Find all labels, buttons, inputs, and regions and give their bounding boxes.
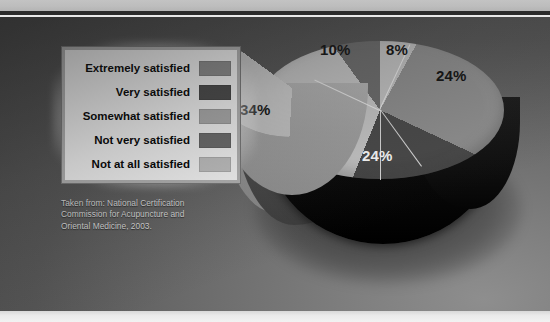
legend-item-somewhat-satisfied: Somewhat satisfied — [65, 104, 237, 128]
caption-line-2: Commission for Acupuncture and — [61, 209, 231, 220]
photo-frame-bottom-band — [0, 311, 550, 322]
pie-label-not-very: 10% — [320, 41, 351, 58]
legend-box: Extremely satisfied Very satisfied Somew… — [62, 47, 240, 183]
legend-label: Somewhat satisfied — [83, 110, 190, 122]
legend-swatch-not-very-satisfied — [199, 133, 231, 148]
legend-item-extremely-satisfied: Extremely satisfied — [65, 56, 237, 80]
caption-line-3: Oriental Medicine, 2003. — [61, 221, 231, 232]
photo-frame-top-highlight — [0, 15, 550, 17]
legend-swatch-somewhat-satisfied — [199, 109, 231, 124]
pie-label-not-at-all: 8% — [386, 41, 408, 58]
caption-line-1: Taken from: National Certification — [61, 198, 231, 209]
photo-frame-top-band — [0, 0, 550, 11]
legend-swatch-very-satisfied — [199, 85, 231, 100]
legend-label: Not at all satisfied — [92, 158, 190, 170]
legend-swatch-not-at-all-satisfied — [199, 157, 231, 172]
pie-label-very: 24% — [362, 147, 393, 164]
legend-swatch-extremely-satisfied — [199, 61, 231, 76]
legend-item-not-at-all-satisfied: Not at all satisfied — [65, 152, 237, 176]
pie-chart: 8% 24% 24% 34% 10% — [214, 17, 550, 311]
pie-separator-top — [380, 110, 382, 180]
legend-label: Not very satisfied — [94, 134, 190, 146]
legend-label: Extremely satisfied — [85, 62, 190, 74]
slide-background: 8% 24% 24% 34% 10% Extremely satisfied V… — [0, 17, 550, 311]
slide-image: 8% 24% 24% 34% 10% Extremely satisfied V… — [0, 0, 550, 322]
legend-item-not-very-satisfied: Not very satisfied — [65, 128, 237, 152]
pie-label-extremely: 24% — [436, 67, 467, 84]
legend-item-very-satisfied: Very satisfied — [65, 80, 237, 104]
source-caption: Taken from: National Certification Commi… — [61, 198, 231, 232]
legend-label: Very satisfied — [116, 86, 190, 98]
